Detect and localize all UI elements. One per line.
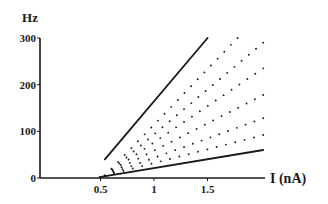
data-point [130,165,132,167]
x-axis-title: I (nA) [270,171,307,187]
data-point [137,158,139,160]
data-point [147,138,149,140]
data-point [231,89,233,91]
data-point [207,105,209,107]
data-point [159,137,161,139]
data-point [210,65,212,67]
data-point [160,160,162,162]
data-point [236,127,238,129]
data-point [237,107,239,109]
data-point [187,132,189,134]
data-point [137,140,139,142]
data-point [121,168,123,170]
data-point [146,153,148,155]
series-dotted-2 [104,42,264,177]
axes [37,38,265,181]
data-point [212,119,214,121]
series-solid-shallow [100,150,264,177]
data-point [167,132,169,134]
data-point [253,137,255,139]
data-point [204,124,206,126]
data-point [124,154,126,156]
data-point [125,157,127,159]
data-point [190,85,192,87]
data-point [230,44,232,46]
data-point [192,143,194,145]
data-point [177,99,179,101]
data-point [171,141,173,143]
data-point [133,151,135,153]
data-point [151,143,153,145]
data-point [203,71,205,73]
series-dotted-6 [104,134,264,177]
frequency-current-chart: 01002003000.511.5HzI (nA) [0,0,328,204]
data-point [262,94,264,96]
data-point [150,127,152,129]
data-point [136,153,138,155]
data-point [118,163,120,165]
data-point [170,106,172,108]
data-point [121,166,123,168]
data-point [128,159,130,161]
data-point [216,146,218,148]
data-point [150,163,152,165]
data-point [188,153,190,155]
data-point [233,66,235,68]
series-dotted-4 [104,94,264,177]
data-point [141,165,143,167]
data-point [254,73,256,75]
x-tick-label: 1 [151,183,157,195]
data-point [262,134,264,136]
data-point [237,37,239,39]
data-point [143,148,145,150]
data-point [117,161,119,163]
data-point [154,149,156,151]
data-point [184,92,186,94]
data-point [197,151,199,153]
data-point [196,128,198,130]
data-point [154,132,156,134]
data-point [223,94,225,96]
data-point [245,124,247,126]
series-dotted-1 [104,37,239,177]
data-point [199,110,201,112]
data-point [139,162,141,164]
y-tick-label: 0 [31,172,37,184]
data-point [161,126,163,128]
data-point [241,60,243,62]
series-solid-steep [105,38,208,159]
data-point [253,121,255,123]
data-point [255,48,257,50]
data-point [165,152,167,154]
data-point [226,72,228,74]
data-point [162,145,164,147]
data-point [223,51,225,53]
data-point [206,148,208,150]
data-point [254,98,256,100]
x-tick-label: 0.5 [94,183,108,195]
data-point [215,100,217,102]
data-point [197,96,199,98]
data-point [148,159,150,161]
data-point [178,156,180,158]
data-point [129,162,131,164]
data-point [244,139,246,141]
data-point [190,102,192,104]
data-point [262,117,264,119]
data-point [212,84,214,86]
data-point [157,120,159,122]
data-point [219,78,221,80]
data-point [164,113,166,115]
series-dotted-3 [104,67,264,176]
data-point [157,156,159,158]
data-point [209,136,211,138]
y-tick-label: 200 [20,79,37,91]
data-point [140,144,142,146]
data-point [123,170,125,172]
series-group [100,37,265,177]
data-point [201,140,203,142]
x-tick-label: 1.5 [201,183,215,195]
data-point [183,108,185,110]
y-tick-label: 100 [20,125,37,137]
data-point [218,133,220,135]
